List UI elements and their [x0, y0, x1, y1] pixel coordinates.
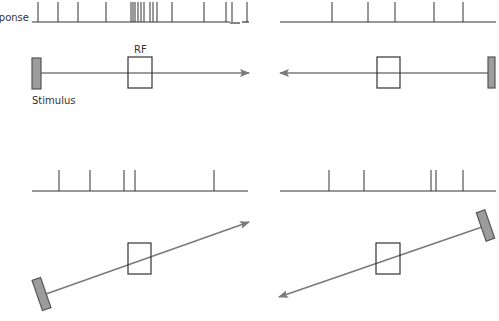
motion-arrow [46, 222, 249, 294]
stimulus-bar [32, 58, 41, 89]
receptive-field-diagram [0, 0, 499, 321]
panel-top-right [280, 2, 496, 88]
response-label: sponse [0, 13, 29, 23]
motion-arrow [279, 227, 482, 297]
stimulus-bar [488, 57, 495, 88]
receptive-field-box [376, 243, 400, 274]
receptive-field-label: RF [134, 45, 147, 55]
stimulus-bar [476, 210, 494, 241]
stimulus-label: Stimulus [32, 96, 75, 106]
panel-bottom-left [32, 170, 249, 311]
panel-bottom-right [279, 170, 496, 297]
